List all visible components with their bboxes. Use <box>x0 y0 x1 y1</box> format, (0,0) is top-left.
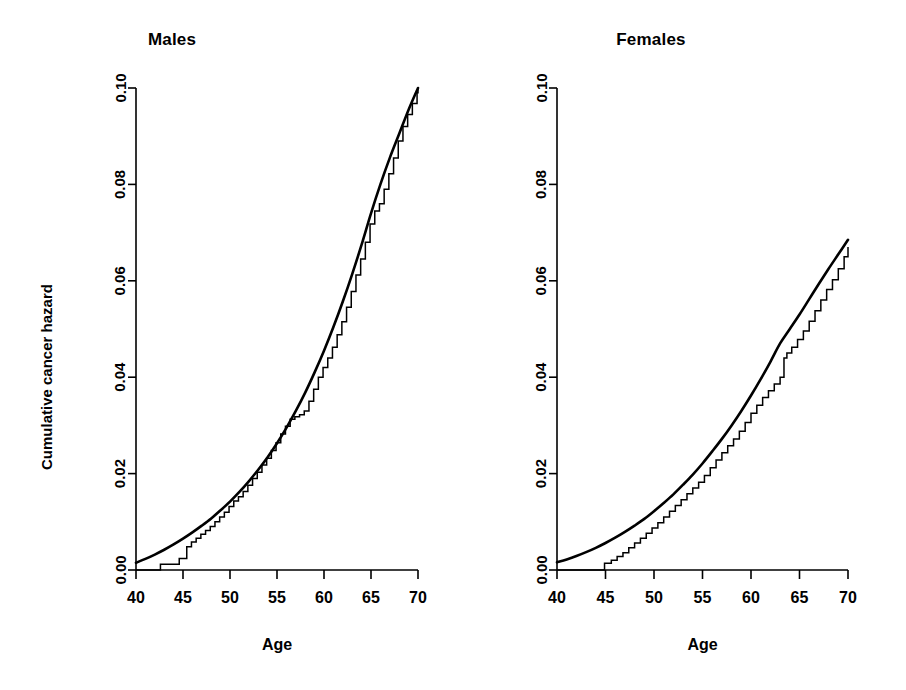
y-tick-label: 0.08 <box>533 170 550 199</box>
smooth-curve-males <box>136 88 418 563</box>
step-curve-females <box>557 247 848 570</box>
x-tick-label: 55 <box>268 589 286 606</box>
chart-panel-females: Females 0.000.020.040.060.080.10 4045505… <box>460 0 906 690</box>
y-tick-labels-males: 0.000.020.040.060.080.10 <box>112 73 129 584</box>
plot-svg-females: 0.000.020.040.060.080.10 40455055606570 <box>460 0 906 690</box>
axes-males <box>128 88 418 579</box>
y-tick-label: 0.04 <box>112 362 129 392</box>
x-tick-label: 65 <box>362 589 380 606</box>
y-tick-label: 0.08 <box>112 170 129 199</box>
x-tick-label: 55 <box>694 589 712 606</box>
y-tick-label: 0.00 <box>533 555 550 584</box>
x-tick-label: 40 <box>127 589 145 606</box>
x-tick-label: 65 <box>791 589 809 606</box>
figure-canvas: Males Cumulative cancer hazard 0.000.020… <box>0 0 906 690</box>
y-tick-label: 0.04 <box>533 362 550 392</box>
y-tick-label: 0.10 <box>112 73 129 102</box>
x-tick-label: 60 <box>315 589 333 606</box>
x-tick-label: 45 <box>174 589 192 606</box>
step-curve-males <box>136 88 418 570</box>
x-tick-labels-males: 40455055606570 <box>127 589 427 606</box>
x-tick-label: 45 <box>597 589 615 606</box>
plot-svg-males: 0.000.020.040.060.080.10 40455055606570 <box>0 0 460 690</box>
x-tick-labels-females: 40455055606570 <box>548 589 857 606</box>
x-axis-label-males: Age <box>136 636 418 654</box>
y-tick-labels-females: 0.000.020.040.060.080.10 <box>533 73 550 584</box>
y-tick-label: 0.00 <box>112 555 129 584</box>
x-tick-label: 70 <box>839 589 857 606</box>
smooth-curve-females <box>557 240 848 562</box>
y-tick-label: 0.02 <box>112 459 129 488</box>
y-tick-label: 0.06 <box>533 266 550 295</box>
x-tick-label: 60 <box>742 589 760 606</box>
y-tick-label: 0.10 <box>533 73 550 102</box>
x-axis-label-females: Age <box>557 636 848 654</box>
chart-panel-males: Males Cumulative cancer hazard 0.000.020… <box>0 0 460 690</box>
y-tick-label: 0.02 <box>533 459 550 488</box>
x-tick-label: 70 <box>409 589 427 606</box>
x-tick-label: 40 <box>548 589 566 606</box>
y-tick-label: 0.06 <box>112 266 129 295</box>
x-tick-label: 50 <box>221 589 239 606</box>
x-tick-label: 50 <box>645 589 663 606</box>
